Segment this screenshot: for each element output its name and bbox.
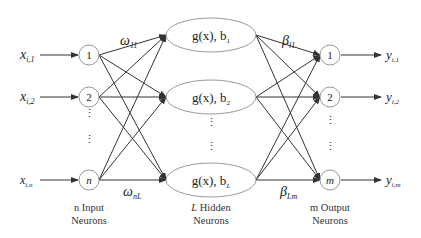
output-caption-line2: Neurons — [312, 215, 348, 226]
svg-text:1: 1 — [86, 49, 92, 61]
input-ellipsis: ⋮ — [84, 107, 95, 119]
weight-omega-nL: ωnL — [123, 184, 142, 201]
input-labels: xi,1 xi,2 xi,n — [19, 47, 34, 189]
input-hidden-connections — [99, 35, 166, 180]
neural-network-diagram: xi,1 xi,2 xi,n 1 2 n ⋮ ⋮ g(x), b1 g(x), … — [0, 0, 421, 238]
input-arrows — [40, 55, 78, 180]
hidden-caption-line1: L Hidden — [190, 202, 231, 213]
input-ellipsis-2: ⋮ — [84, 133, 95, 145]
hidden-ellipsis-2: ⋮ — [206, 140, 217, 152]
svg-text:m: m — [326, 174, 334, 186]
weight-beta-l1: βl1 — [281, 33, 295, 50]
svg-text:g(x), bL: g(x), bL — [192, 173, 231, 190]
svg-text:g(x), b2: g(x), b2 — [192, 90, 231, 107]
output-node-1: 1 — [320, 45, 340, 65]
output-node-2: 2 — [320, 87, 340, 107]
input-caption-line1: n Input — [74, 202, 104, 213]
output-caption-line1: m Output — [310, 202, 350, 213]
output-y1: yi,1 — [384, 47, 399, 64]
svg-text:g(x), b1: g(x), b1 — [192, 28, 231, 45]
hidden-nodes: g(x), b1 g(x), b2 g(x), bL ⋮ ⋮ — [166, 18, 256, 197]
hidden-node-2: g(x), b2 — [166, 80, 256, 114]
hidden-node-1: g(x), b1 — [166, 18, 256, 52]
input-caption-line2: Neurons — [71, 215, 107, 226]
weight-omega-11: ω11 — [120, 33, 137, 50]
svg-text:n: n — [86, 174, 92, 186]
input-x2: xi,2 — [19, 89, 34, 106]
input-node-n: n — [79, 170, 99, 190]
layer-captions: n Input Neurons L Hidden Neurons m Outpu… — [71, 202, 350, 226]
svg-text:2: 2 — [327, 91, 333, 103]
output-nodes: 1 2 m ⋮ ⋮ — [320, 45, 340, 190]
output-arrows — [341, 55, 381, 180]
input-node-2: 2 — [79, 87, 99, 107]
svg-text:2: 2 — [86, 91, 92, 103]
input-xn: xi,n — [19, 173, 33, 189]
output-node-m: m — [320, 170, 340, 190]
input-node-1: 1 — [79, 45, 99, 65]
hidden-node-L: g(x), bL — [166, 163, 256, 197]
hidden-caption-line2: Neurons — [193, 215, 229, 226]
svg-text:1: 1 — [327, 49, 333, 61]
input-x1: xi,1 — [19, 47, 34, 64]
output-ym: yi,m — [384, 172, 401, 189]
weight-beta-Lm: βLm — [279, 184, 297, 201]
output-labels: yi,1 yi,2 yi,m — [384, 47, 401, 189]
output-ellipsis-2: ⋮ — [325, 140, 336, 152]
output-ellipsis: ⋮ — [325, 114, 336, 126]
input-nodes: 1 2 n ⋮ ⋮ — [79, 45, 99, 190]
hidden-ellipsis: ⋮ — [206, 116, 217, 128]
output-y2: yi,2 — [384, 89, 399, 106]
hidden-output-connections — [256, 35, 320, 180]
